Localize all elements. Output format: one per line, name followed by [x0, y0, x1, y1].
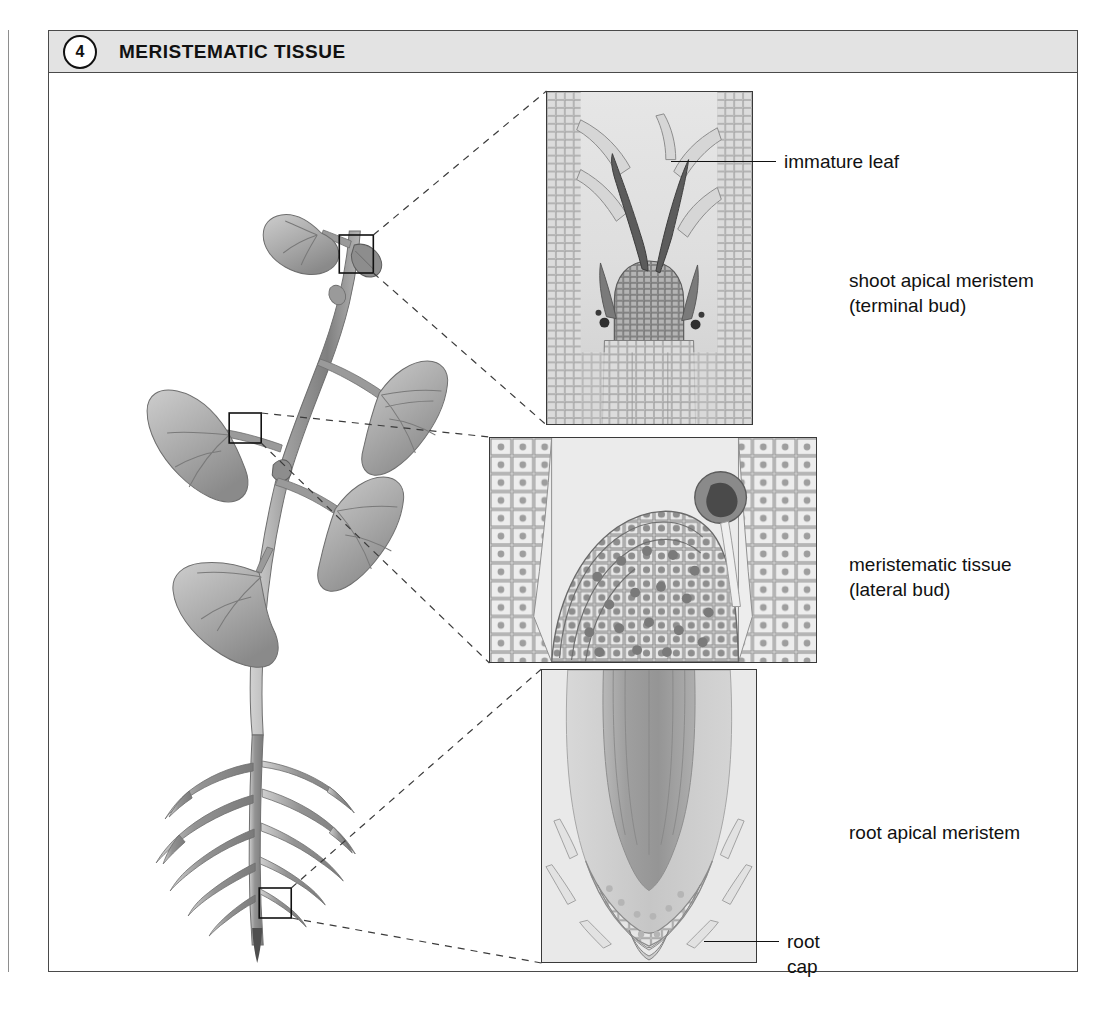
figure-frame: 4 MERISTEMATIC TISSUE [48, 30, 1078, 972]
shoot-apical-meristem-image [547, 92, 752, 424]
label-root-apical-meristem: root apical meristem [849, 820, 1020, 845]
label-meristematic-tissue: meristematic tissue (lateral bud) [849, 552, 1012, 602]
leader-root-bottom [291, 918, 541, 963]
panel-lateral-bud-meristem [489, 437, 817, 663]
leader-root-top [291, 669, 541, 888]
leader-line-root-cap [704, 941, 779, 942]
leader-line-immature-leaf [671, 161, 776, 162]
figure-header: 4 MERISTEMATIC TISSUE [49, 31, 1077, 73]
panel-root-apical-meristem [541, 669, 757, 963]
label-root-cap: root cap [787, 929, 820, 979]
figure-body: immature leaf shoot apical meristem (ter… [49, 73, 1077, 971]
label-shoot-apical-meristem: shoot apical meristem (terminal bud) [849, 268, 1034, 318]
figure-title: MERISTEMATIC TISSUE [119, 41, 346, 63]
panel-shoot-apical-meristem [546, 91, 753, 425]
label-immature-leaf: immature leaf [784, 149, 899, 174]
root-apical-meristem-image [542, 670, 756, 962]
plant-illustration [147, 215, 448, 963]
leader-terminal-top [373, 91, 546, 235]
leader-lateral-bottom [261, 443, 489, 663]
figure-page: 4 MERISTEMATIC TISSUE [0, 0, 1100, 1025]
lateral-bud-meristem-image [490, 438, 816, 662]
figure-number-badge: 4 [63, 35, 97, 69]
page-edge-rule [8, 30, 9, 972]
